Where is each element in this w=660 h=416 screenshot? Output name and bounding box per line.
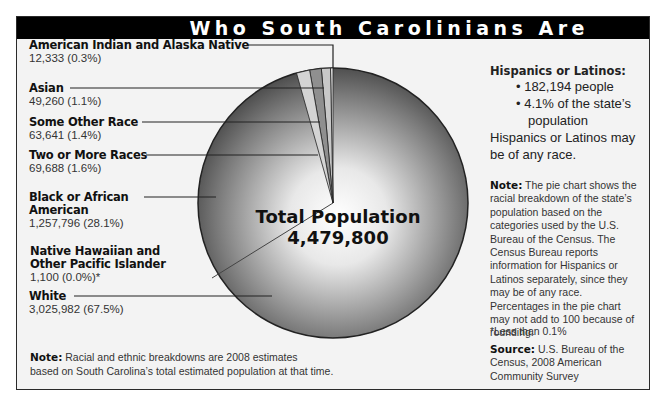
source-note: Source: U.S. Bureau of the Census, 2008 … <box>490 343 640 383</box>
label-asian: Asian 49,260 (1.1%) <box>29 82 101 108</box>
footnote: *Less than 0.1% <box>490 325 566 338</box>
label-white: White 3,025,982 (67.5%) <box>29 290 124 316</box>
label-black: Black or African American 1,257,796 (28.… <box>29 191 129 230</box>
label-native-hawaiian: Native Hawaiian and Other Pacific Island… <box>30 245 166 284</box>
label-american-indian: American Indian and Alaska Native 12,333… <box>29 39 249 65</box>
note-bottom: Note: Racial and ethnic breakdowns are 2… <box>30 350 333 378</box>
hispanic-box: Hispanics or Latinos: • 182,194 people •… <box>490 64 635 163</box>
note-right: Note: The pie chart shows the racial bre… <box>490 179 642 340</box>
label-two-or-more: Two or More Races 69,688 (1.6%) <box>29 149 147 175</box>
label-some-other-race: Some Other Race 63,641 (1.4%) <box>29 116 138 142</box>
total-population: Total Population 4,479,800 <box>238 206 438 248</box>
